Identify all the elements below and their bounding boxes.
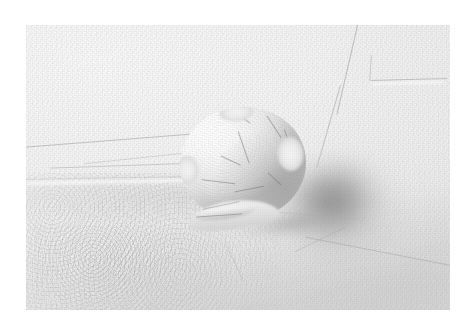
upper-right-ledge-highlight — [372, 81, 444, 85]
upper-right-ledge-riser — [369, 55, 372, 81]
stipple-patch-bottom — [34, 225, 229, 311]
photograph — [26, 25, 450, 310]
photo-frame — [0, 0, 476, 331]
upper-right-seam-line — [336, 25, 359, 115]
left-radiating-line-1 — [26, 133, 200, 148]
bottom-centre-mark — [225, 243, 243, 279]
